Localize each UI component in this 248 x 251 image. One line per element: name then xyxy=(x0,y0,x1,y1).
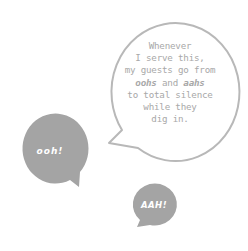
quote-line: dig in. xyxy=(108,113,232,125)
quote-line: oohs and aahs xyxy=(108,77,232,89)
aahs-emphasis: aahs xyxy=(183,77,204,88)
ooh-label: ooh! xyxy=(20,146,80,156)
speech-bubbles-graphic xyxy=(0,0,248,251)
illustration: Whenever I serve this, my guests go from… xyxy=(0,0,248,251)
quote-line: Whenever xyxy=(108,40,232,52)
quote-connector: and xyxy=(157,77,184,88)
quote-line: to total silence xyxy=(108,89,232,101)
quote-line: I serve this, xyxy=(108,52,232,64)
quote-line: my guests go from xyxy=(108,64,232,76)
aah-label: AAH! xyxy=(134,200,174,210)
quote-text: Whenever I serve this, my guests go from… xyxy=(108,40,232,125)
quote-line: while they xyxy=(108,101,232,113)
oohs-emphasis: oohs xyxy=(135,77,156,88)
